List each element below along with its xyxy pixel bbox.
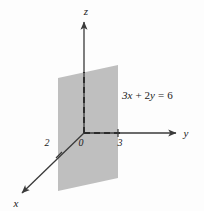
- z-axis-label: z: [83, 5, 89, 17]
- origin-label: 0: [79, 137, 84, 148]
- math-figure-3d-plane: z y x 0 2 3 3x+2y=6: [0, 0, 204, 211]
- equation-var-y: y: [149, 89, 155, 101]
- y-axis-label: y: [183, 127, 189, 139]
- y-intercept-label-3: 3: [117, 137, 123, 148]
- equation-rhs: 6: [167, 89, 173, 101]
- x-axis-label: x: [13, 197, 19, 209]
- x-intercept-label-2: 2: [45, 137, 50, 148]
- plane-equation-label: 3x+2y=6: [121, 89, 173, 101]
- equation-equals: =: [158, 89, 164, 101]
- equation-plus: +: [135, 89, 141, 101]
- equation-var-x: x: [127, 89, 133, 101]
- shaded-plane-region: [58, 65, 118, 191]
